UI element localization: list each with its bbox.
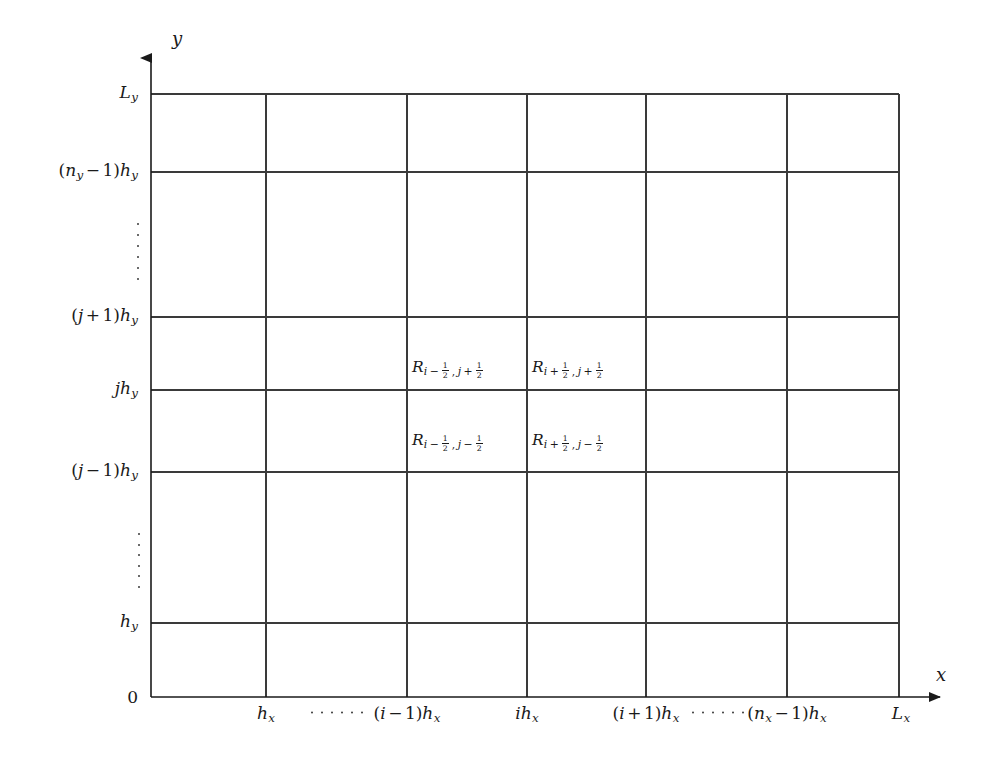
cell-label-R-im-jm: Ri−12,j−12 [412, 433, 483, 452]
y-tick-label-origin: 0 [127, 689, 138, 706]
y-tick-label-hy: hy [120, 613, 138, 633]
grid-vertical-lines [266, 94, 899, 697]
x-axis-label: x [936, 666, 946, 684]
grid-and-axes [0, 0, 995, 772]
x-tick-label-hx: hx [257, 705, 275, 725]
x-tick-label-i: ihx [515, 705, 539, 725]
x-tick-label-Lx: Lx [892, 705, 910, 725]
vertical-ellipsis-lower [137, 533, 140, 588]
cell-label-R-im-jp: Ri−12,j+12 [412, 360, 483, 379]
y-tick-label-j-minus-1: (j−1)hy [71, 462, 138, 482]
x-tick-label-nx-minus-1: (nx−1)hx [747, 705, 826, 725]
y-tick-label-Ly: Ly [120, 84, 138, 104]
y-tick-label-j: jhy [115, 380, 138, 400]
x-tick-label-i-minus-1: (i−1)hx [374, 705, 441, 725]
vertical-ellipsis-upper [136, 223, 139, 280]
figure-root: y x Ly (ny−1)hy (j+1)hy jhy (j−1)hy hy 0… [0, 0, 995, 772]
y-tick-label-ny-minus-1: (ny−1)hy [59, 162, 138, 182]
x-tick-label-i-plus-1: (i+1)hx [613, 705, 680, 725]
horizontal-ellipsis-right [692, 711, 744, 714]
horizontal-ellipsis-left [311, 711, 363, 714]
y-axis-label: y [172, 30, 182, 48]
y-tick-label-j-plus-1: (j+1)hy [71, 307, 138, 327]
cell-label-R-ip-jm: Ri+12,j−12 [532, 433, 603, 452]
cell-label-R-ip-jp: Ri+12,j+12 [532, 360, 603, 379]
